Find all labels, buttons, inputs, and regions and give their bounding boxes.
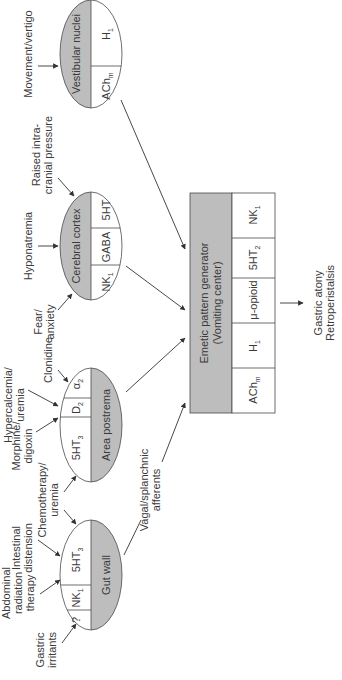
input-hypercalcemia-2: uremia xyxy=(14,387,26,422)
arrow-morphine xyxy=(36,418,58,432)
vagal-label-1: Vagal/splanchnic xyxy=(138,448,150,531)
input-chemo-1: Chemotherapy/ xyxy=(36,461,48,537)
edge-gut-emetic-b xyxy=(162,403,185,462)
input-gastric-2: irritants xyxy=(46,631,58,668)
input-clonidine: Clonidine xyxy=(42,337,54,383)
receptor-gaba: GABA xyxy=(100,231,112,262)
input-morphine-1: Morphine/ xyxy=(10,421,22,471)
arrow-distension xyxy=(38,540,60,556)
emetic-pattern-generator-node: Emetic pattern generator (Vomiting cente… xyxy=(190,193,275,413)
arrow-clonidine xyxy=(58,370,68,382)
receptor-nk1: NK1 xyxy=(70,588,84,607)
arrow-chemo-gut xyxy=(64,510,76,524)
receptor-unknown: ? xyxy=(70,617,82,623)
output-gastric-atony: Gastric atony xyxy=(312,270,324,335)
receptor-h1: H1 xyxy=(100,28,114,40)
input-radiation-3: therapy xyxy=(24,574,36,611)
receptor-5ht3: 5HT3 xyxy=(70,436,84,461)
area-postrema-label: Area postrema xyxy=(100,388,112,461)
edge-cortex-emetic xyxy=(126,266,185,310)
arrow-radiation xyxy=(40,580,60,594)
receptor-nk1: NK1 xyxy=(100,272,114,291)
input-fear-2: anxiety xyxy=(44,304,56,339)
input-radiation-2: radiation xyxy=(12,572,24,614)
receptor-5ht3: 5HT3 xyxy=(70,548,84,573)
arrow-chemo-postrema xyxy=(64,476,76,492)
arrow-raised-icp xyxy=(58,178,74,196)
cerebral-cortex-node: Cerebral cortex 5HT GABA NK1 xyxy=(60,190,122,305)
area-postrema-node: Area postrema α2 D2 5HT3 xyxy=(60,365,122,485)
receptor-achm: AChm xyxy=(100,72,114,99)
receptor-5ht: 5HT xyxy=(100,199,112,220)
arrow-fear xyxy=(58,294,72,310)
input-chemo-2: uremia xyxy=(48,482,60,517)
input-hyponatremia: Hyponatremia xyxy=(22,211,34,280)
arrow-hypercalcemia xyxy=(28,390,58,406)
input-gastric-1: Gastric xyxy=(34,632,46,667)
vestibular-nuclei-label: Vestibular nuclei xyxy=(70,14,82,94)
receptor-d2: D2 xyxy=(70,402,84,414)
receptor-mu-opioid: μ-opioid xyxy=(247,280,259,319)
input-distension-1: Intestinal xyxy=(10,526,22,570)
edge-postrema-emetic xyxy=(126,338,185,392)
cerebral-cortex-label: Cerebral cortex xyxy=(70,208,82,284)
input-raised-icp-1: Raised intra- xyxy=(30,123,42,186)
input-fear-1: Fear/ xyxy=(32,308,44,335)
input-movement-vertigo: Movement/vertigo xyxy=(22,10,34,97)
input-radiation-1: Abdominal xyxy=(0,567,12,619)
output-retroperistalsis: Retroperistalsis xyxy=(324,265,336,341)
emetic-title-2: (Vomiting center) xyxy=(211,261,223,344)
arrow-gastric xyxy=(62,624,76,643)
emesis-pathway-diagram: Vestibular nuclei H1 AChm Movement/verti… xyxy=(0,0,342,680)
gut-wall-label: Gut wall xyxy=(100,555,112,595)
edge-vestibular-emetic xyxy=(121,100,185,249)
vagal-label-2: afferents xyxy=(150,468,162,511)
emetic-title-1: Emetic pattern generator xyxy=(198,242,210,363)
input-raised-icp-2: cranial pressure xyxy=(42,116,54,194)
vestibular-nuclei-node: Vestibular nuclei H1 AChm xyxy=(60,0,122,110)
gut-wall-node: Gut wall 5HT3 NK1 ? xyxy=(60,518,122,633)
input-distension-2: distension xyxy=(22,523,34,573)
input-morphine-2: digoxin xyxy=(22,429,34,464)
